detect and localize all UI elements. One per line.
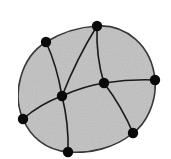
node-right: [150, 75, 160, 85]
node-left: [18, 114, 28, 124]
node-center: [57, 91, 67, 101]
node-bottom: [63, 147, 73, 157]
planar-graph-diagram: [0, 0, 171, 159]
node-top: [92, 21, 102, 31]
node-lower-right: [128, 128, 138, 138]
node-upper-left: [41, 37, 51, 47]
node-center-right: [99, 78, 109, 88]
